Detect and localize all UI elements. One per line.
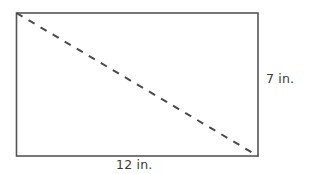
height-dimension-label: 7 in. <box>266 72 294 86</box>
width-dimension-label: 12 in. <box>116 158 152 172</box>
diagonal-dashed-line <box>17 13 259 156</box>
rectangle-diagonal-figure <box>0 0 312 174</box>
